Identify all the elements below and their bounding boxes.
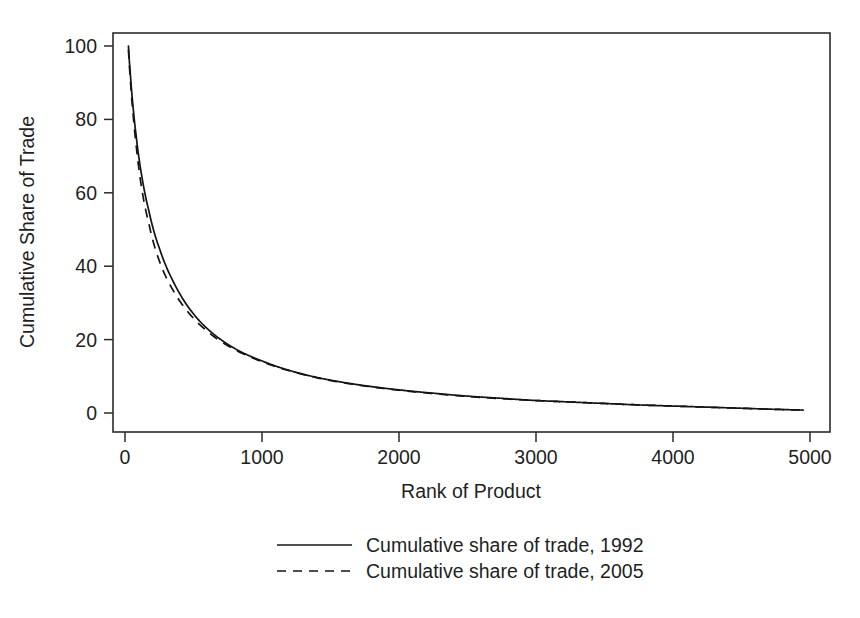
x-axis: 010002000300040005000 [120,432,832,468]
x-tick-label: 1000 [240,446,284,468]
x-tick-label: 0 [120,446,131,468]
series-line-2005 [128,50,803,410]
y-axis-title: Cumulative Share of Trade [16,116,38,348]
legend-label-2005: Cumulative share of trade, 2005 [366,560,644,582]
x-axis-title: Rank of Product [401,480,541,502]
x-tick-label: 2000 [377,446,421,468]
plot-frame [113,33,830,432]
y-tick-label: 20 [75,329,97,351]
legend-label-1992: Cumulative share of trade, 1992 [366,534,644,556]
cumulative-share-of-trade-line-chart: 020406080100 010002000300040005000 Rank … [0,0,860,618]
y-tick-label: 80 [75,108,97,130]
chart-figure: 020406080100 010002000300040005000 Rank … [0,0,860,618]
y-tick-label: 40 [75,255,97,277]
chart-legend: Cumulative share of trade, 1992 Cumulati… [277,534,644,582]
series-line-1992 [128,46,803,410]
y-axis: 020406080100 [64,35,113,424]
y-tick-label: 0 [86,402,97,424]
y-tick-label: 100 [64,35,97,57]
x-tick-label: 4000 [651,446,695,468]
y-tick-label: 60 [75,182,97,204]
data-series-layer [128,46,803,410]
x-tick-label: 3000 [514,446,558,468]
x-tick-label: 5000 [788,446,832,468]
